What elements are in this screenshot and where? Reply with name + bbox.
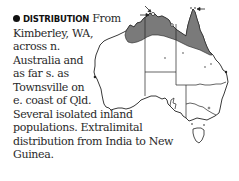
arrow-icon	[197, 8, 205, 11]
bass-strait-island	[191, 123, 193, 125]
text-line-9: populations. Extralimital	[13, 121, 173, 135]
cape-york-island	[190, 7, 192, 9]
text-line-11: Guinea.	[13, 148, 173, 162]
tasmania	[193, 128, 204, 143]
text-line-7: e. coast of Qld.	[13, 94, 173, 108]
text-line-1: DISTRIBUTION From	[13, 12, 173, 27]
text-line-3: across n.	[13, 40, 173, 54]
section-heading: DISTRIBUTION	[23, 14, 89, 24]
cape-york-island	[194, 7, 196, 9]
text-line-10: distribution from India to New	[13, 135, 173, 149]
distribution-text: DISTRIBUTION From Kimberley, WA, across …	[13, 12, 173, 162]
text-line-6: Townsville on	[13, 81, 173, 95]
text-line-4: Australia and	[13, 54, 173, 68]
coast-marker	[225, 71, 227, 73]
text-line-8: Several isolated inland	[13, 108, 173, 122]
bullet-icon	[13, 15, 20, 22]
bass-strait-island	[203, 124, 205, 126]
text-line-5: as far s. as	[13, 67, 173, 81]
text-line-2: Kimberley, WA,	[13, 27, 173, 41]
